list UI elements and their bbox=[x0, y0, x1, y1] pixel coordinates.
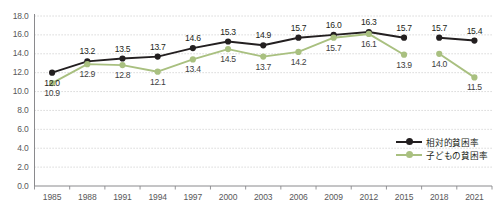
legend-item-label: 子どもの貧困率 bbox=[422, 149, 488, 161]
x-axis-tick-label: 1991 bbox=[102, 192, 142, 202]
data-point-marker bbox=[225, 46, 231, 52]
data-point-label: 15.7 bbox=[425, 23, 453, 33]
x-axis-tick-label: 2015 bbox=[384, 192, 424, 202]
data-point-marker bbox=[471, 37, 477, 43]
x-axis-tick-label: 2012 bbox=[349, 192, 389, 202]
data-point-marker bbox=[84, 61, 90, 67]
y-axis-tick-label: 10.0 bbox=[0, 86, 29, 96]
data-point-label: 10.9 bbox=[38, 88, 66, 98]
data-point-marker bbox=[295, 35, 301, 41]
data-point-label: 13.9 bbox=[390, 60, 418, 70]
data-point-label: 12.8 bbox=[108, 70, 136, 80]
chart-legend: 相対的貧困率子どもの貧困率 bbox=[396, 135, 488, 161]
data-point-marker bbox=[49, 70, 55, 76]
legend-item-label: 相対的貧困率 bbox=[422, 136, 479, 148]
y-axis-tick-label: 4.0 bbox=[0, 143, 29, 153]
data-point-marker bbox=[436, 51, 442, 57]
data-point-label: 14.5 bbox=[214, 54, 242, 64]
data-point-marker bbox=[471, 74, 477, 80]
data-point-marker bbox=[436, 35, 442, 41]
data-point-marker bbox=[155, 54, 161, 60]
x-axis-tick-label: 1997 bbox=[173, 192, 213, 202]
y-axis-tick-label: 8.0 bbox=[0, 105, 29, 115]
data-point-label: 12.9 bbox=[73, 69, 101, 79]
data-point-label: 13.7 bbox=[249, 62, 277, 72]
data-point-label: 14.2 bbox=[284, 57, 312, 67]
data-point-marker bbox=[190, 56, 196, 62]
data-point-label: 13.5 bbox=[108, 44, 136, 54]
data-point-marker bbox=[190, 45, 196, 51]
x-axis-tick-label: 2003 bbox=[243, 192, 283, 202]
data-point-marker bbox=[331, 35, 337, 41]
data-point-label: 13.4 bbox=[179, 64, 207, 74]
data-point-label: 15.7 bbox=[320, 43, 348, 53]
legend-marker-icon bbox=[396, 149, 422, 160]
x-axis-tick-label: 2006 bbox=[278, 192, 318, 202]
x-axis-tick-label: 2021 bbox=[454, 192, 494, 202]
data-point-label: 16.1 bbox=[355, 39, 383, 49]
y-axis-tick-label: 14.0 bbox=[0, 48, 29, 58]
data-point-label: 16.3 bbox=[355, 17, 383, 27]
y-axis-tick-label: 6.0 bbox=[0, 124, 29, 134]
data-point-label: 12.0 bbox=[38, 78, 66, 88]
x-axis-tick-label: 1994 bbox=[138, 192, 178, 202]
data-point-label: 16.0 bbox=[320, 20, 348, 30]
data-point-label: 14.9 bbox=[249, 30, 277, 40]
data-point-label: 13.2 bbox=[73, 46, 101, 56]
data-point-label: 12.1 bbox=[144, 77, 172, 87]
x-axis-tick-label: 2000 bbox=[208, 192, 248, 202]
data-point-label: 15.3 bbox=[214, 27, 242, 37]
data-point-marker bbox=[260, 54, 266, 60]
data-point-marker bbox=[155, 69, 161, 75]
y-axis-tick-label: 16.0 bbox=[0, 29, 29, 39]
legend-item[interactable]: 相対的貧困率 bbox=[396, 135, 488, 148]
data-point-label: 15.7 bbox=[284, 23, 312, 33]
y-axis-tick-label: 12.0 bbox=[0, 67, 29, 77]
data-point-marker bbox=[401, 52, 407, 58]
y-axis-tick-label: 2.0 bbox=[0, 162, 29, 172]
data-point-label: 15.4 bbox=[460, 26, 488, 36]
data-point-label: 15.7 bbox=[390, 23, 418, 33]
x-axis-tick-label: 2009 bbox=[314, 192, 354, 202]
data-point-label: 14.0 bbox=[425, 59, 453, 69]
data-point-marker bbox=[119, 62, 125, 68]
series-line bbox=[439, 38, 474, 41]
poverty-rate-line-chart: 18.016.014.012.010.08.06.04.02.00.019851… bbox=[0, 0, 502, 213]
data-point-marker bbox=[260, 42, 266, 48]
data-point-marker bbox=[295, 49, 301, 55]
data-point-marker bbox=[366, 31, 372, 37]
data-point-marker bbox=[225, 38, 231, 44]
legend-item[interactable]: 子どもの貧困率 bbox=[396, 148, 488, 161]
legend-marker-icon bbox=[396, 136, 422, 147]
series-line bbox=[52, 32, 404, 73]
x-axis-tick-label: 1988 bbox=[67, 192, 107, 202]
data-point-marker bbox=[119, 55, 125, 61]
data-point-marker bbox=[401, 35, 407, 41]
y-axis-tick-label: 18.0 bbox=[0, 11, 29, 21]
data-point-label: 13.7 bbox=[144, 42, 172, 52]
y-axis-tick-label: 0.0 bbox=[0, 181, 29, 191]
data-point-label: 14.6 bbox=[179, 33, 207, 43]
x-axis-tick-label: 1985 bbox=[32, 192, 72, 202]
x-axis-tick-label: 2018 bbox=[419, 192, 459, 202]
data-point-label: 11.5 bbox=[460, 82, 488, 92]
